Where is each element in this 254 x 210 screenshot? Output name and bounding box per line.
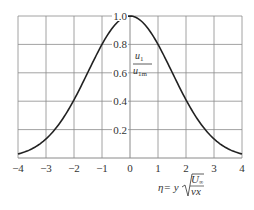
x-tick-label: 3 [211, 162, 217, 174]
svg-text:νx: νx [191, 185, 201, 197]
y-tick-label: 1.0 [113, 10, 127, 22]
x-tick-label: 1 [155, 162, 161, 174]
x-tick-label: −4 [12, 162, 24, 174]
grid [18, 16, 242, 158]
y-tick-label: 0.4 [113, 95, 127, 107]
svg-text:u1: u1 [135, 50, 144, 63]
x-tick-label: −1 [96, 162, 108, 174]
svg-text:U∞: U∞ [191, 173, 203, 185]
svg-text:η= y: η= y [158, 181, 179, 193]
x-tick-label: 0 [127, 162, 133, 174]
profile-chart: −4−3−2−101234 0.20.40.60.81.0 u1 u1m η= … [0, 0, 254, 210]
svg-text:u1m: u1m [133, 65, 148, 78]
y-axis-label: u1 u1m [133, 50, 152, 78]
x-tick-label: 2 [183, 162, 189, 174]
x-tick-label: −2 [68, 162, 80, 174]
x-axis-ticks: −4−3−2−101234 [12, 162, 245, 174]
x-axis-label: η= y U∞ νx [158, 173, 204, 197]
x-tick-label: −3 [40, 162, 52, 174]
y-tick-label: 0.2 [113, 124, 127, 136]
x-tick-label: 4 [239, 162, 245, 174]
y-axis-ticks: 0.20.40.60.81.0 [112, 10, 128, 136]
y-tick-label: 0.8 [113, 38, 127, 50]
y-tick-label: 0.6 [113, 67, 127, 79]
